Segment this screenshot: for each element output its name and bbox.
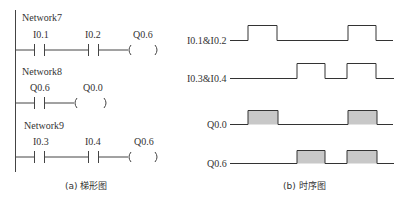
- rung-network8: [15, 97, 106, 109]
- diagram-canvas: [0, 0, 406, 202]
- signal-label: Q0.0: [207, 119, 227, 130]
- waveform-0: [230, 26, 393, 41]
- waveform-1: [230, 64, 394, 79]
- rung-network9: [15, 151, 157, 163]
- coil-label: Q0.6: [134, 136, 154, 147]
- signal-label: Q0.6: [207, 158, 227, 169]
- timing-caption: (b) 时序图: [283, 180, 326, 192]
- contact-label: I0.2: [85, 29, 101, 40]
- contact-label: Q0.6: [30, 82, 50, 93]
- signal-label: I0.3&I0.4: [187, 73, 226, 84]
- signal-label: I0.1&I0.2: [187, 35, 226, 46]
- network9-title: Network9: [24, 120, 64, 131]
- network7-title: Network7: [22, 12, 62, 23]
- rung-network7: [15, 44, 157, 56]
- ladder-caption: (a) 梯形图: [65, 180, 107, 192]
- coil-label: Q0.0: [83, 82, 103, 93]
- network8-title: Network8: [22, 66, 62, 77]
- pulse-fill: [248, 111, 278, 125]
- pulse-fill: [347, 151, 377, 164]
- pulse-fill: [348, 111, 377, 125]
- contact-label: I0.1: [33, 29, 49, 40]
- timing-waveforms: [230, 26, 394, 164]
- contact-label: I0.4: [85, 136, 101, 147]
- contact-label: I0.3: [33, 136, 49, 147]
- coil-icon: [129, 45, 131, 55]
- pulse-fill: [297, 151, 325, 164]
- coil-icon: [155, 45, 157, 55]
- coil-label: Q0.6: [133, 29, 153, 40]
